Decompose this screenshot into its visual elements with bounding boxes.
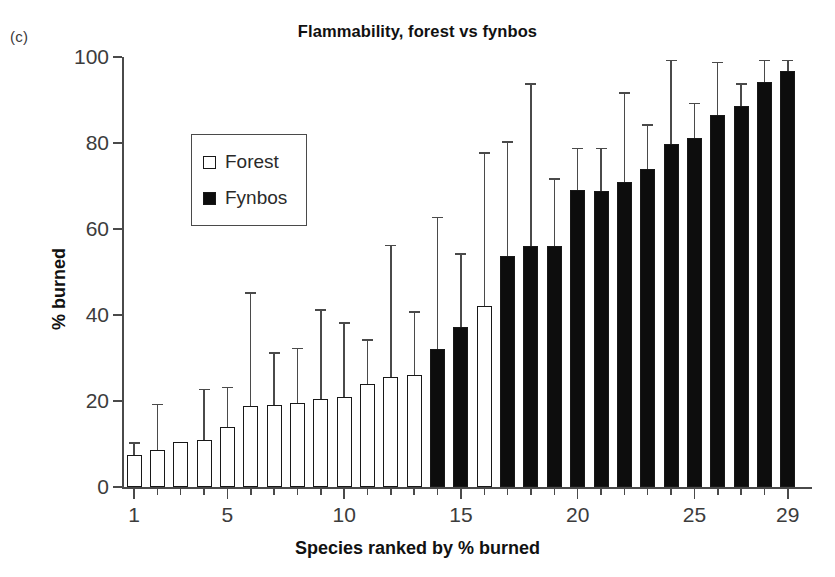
x-tick-minor [180,488,182,495]
bar-forest-1 [127,455,142,487]
x-tick-minor [764,488,766,495]
error-bar-cap [782,60,793,62]
bar-fynbos-18 [523,246,538,487]
error-bar-stem [484,154,485,306]
error-bar-cap [385,245,396,247]
bar-fynbos-20 [570,190,585,487]
bar-group [757,57,772,487]
error-bar-cap [525,83,536,85]
bar-fynbos-14 [430,349,445,487]
error-bar-stem [273,354,274,406]
bar-fynbos-27 [734,106,749,487]
legend-swatch-forest-icon [203,156,216,169]
x-tick-minor [600,488,602,495]
bar-forest-3 [173,442,188,487]
bar-fynbos-21 [594,191,609,487]
bar-group [570,57,585,487]
legend-item-fynbos: Fynbos [203,180,306,216]
x-tick-label: 15 [449,503,472,527]
error-bar-cap [759,60,770,62]
error-bar-cap [619,92,630,94]
x-tick-minor [740,488,742,495]
bar-fynbos-23 [640,169,655,487]
bar-forest-5 [220,427,235,487]
y-tick-label: 0 [97,475,109,499]
bar-group [594,57,609,487]
error-bar-cap [689,103,700,105]
error-bar-stem [250,294,251,407]
error-bar-stem [297,349,298,403]
legend-label-fynbos: Fynbos [225,187,287,209]
bar-group [477,57,492,487]
error-bar-stem [577,149,578,190]
bar-group [220,57,235,487]
x-axis-line [122,487,812,489]
y-tick [113,228,122,230]
error-bar-stem [367,341,368,384]
error-bar-cap [129,442,140,444]
error-bar-cap [642,124,653,126]
error-bar-stem [764,61,765,82]
error-bar-stem [414,313,415,375]
bar-fynbos-29 [780,71,795,487]
error-bar-cap [199,389,210,391]
x-tick-label: 20 [566,503,589,527]
error-bar-stem [507,143,508,256]
bar-group [150,57,165,487]
error-bar-stem [390,246,391,376]
legend-label-forest: Forest [225,151,279,173]
x-tick-minor [554,488,556,495]
y-tick [113,314,122,316]
bar-group [687,57,702,487]
bar-group [734,57,749,487]
error-bar-stem [600,149,601,191]
x-tick-minor [437,488,439,495]
error-bar-cap [596,148,607,150]
bar-group [173,57,188,487]
error-bar-stem [203,390,204,439]
bar-forest-9 [313,399,328,487]
error-bar-stem [740,85,741,107]
y-tick [113,56,122,58]
y-axis-title: % burned [49,247,70,329]
bar-forest-12 [383,377,398,488]
y-tick-label: 60 [86,217,109,241]
error-bar-cap [315,309,326,311]
bar-group [664,57,679,487]
bar-group [267,57,282,487]
bar-fynbos-26 [710,115,725,487]
error-bar-stem [694,104,695,138]
y-axis-line [122,57,124,488]
bar-fynbos-25 [687,138,702,487]
legend-swatch-fynbos-icon [203,192,216,205]
x-tick-label: 29 [776,503,799,527]
y-tick-label: 40 [86,303,109,327]
bar-group [407,57,422,487]
x-axis-title: Species ranked by % burned [0,538,835,559]
x-tick-minor [624,488,626,495]
bar-group [243,57,258,487]
bar-group [780,57,795,487]
error-bar-cap [572,148,583,150]
x-tick-label: 5 [222,503,234,527]
bar-fynbos-19 [547,246,562,487]
x-tick-minor [273,488,275,495]
x-tick-minor [367,488,369,495]
error-bar-stem [647,126,648,169]
error-bar-cap [666,60,677,62]
error-bar-stem [787,61,788,70]
bar-fynbos-15 [453,327,468,487]
x-tick-major [577,488,579,499]
bar-forest-16 [477,306,492,487]
x-tick-label: 10 [332,503,355,527]
x-tick-major [787,488,789,499]
y-tick [113,400,122,402]
error-bar-cap [502,141,513,143]
bar-fynbos-28 [757,82,772,487]
error-bar-cap [479,152,490,154]
bar-group [337,57,352,487]
y-tick-label: 100 [74,45,109,69]
bar-group [430,57,445,487]
error-bar-cap [736,83,747,85]
bar-fynbos-24 [664,144,679,487]
